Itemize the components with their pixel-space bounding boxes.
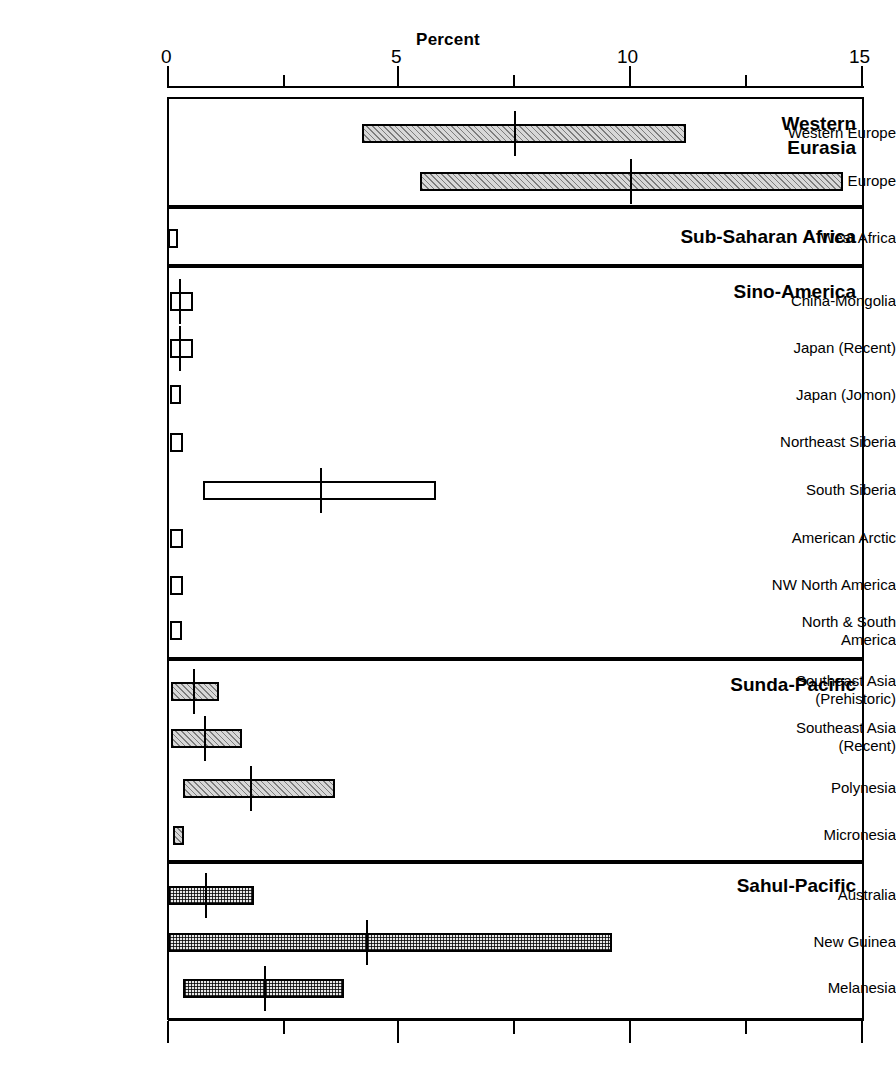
- x-axis-bottom-tick-10: [629, 1021, 631, 1043]
- x-tick-label-15: 15: [849, 46, 870, 68]
- cat-label-northeast-siberia: Northeast Siberia: [741, 433, 896, 451]
- x-axis-top-tick-7.5: [513, 75, 515, 88]
- range-bar: [168, 229, 178, 248]
- x-tick-label-10: 10: [617, 46, 638, 68]
- x-axis-bottom-tick-12.5: [745, 1021, 747, 1034]
- range-bar: [173, 826, 185, 845]
- median-marker: [179, 279, 181, 324]
- cat-label-sea-prehistoric-line2: (Prehistoric): [741, 690, 896, 708]
- cat-label-japan-jomon: Japan (Jomon): [741, 386, 896, 404]
- cat-label-western-europe: Western Europe: [741, 124, 896, 142]
- x-axis-top-tick-15: [861, 66, 863, 88]
- median-marker: [205, 873, 207, 918]
- x-axis-top-tick-12.5: [745, 75, 747, 88]
- range-bar: [170, 292, 193, 311]
- x-axis-top-tick-2.5: [283, 75, 285, 88]
- panel-sino-america: [167, 266, 864, 659]
- range-bar: [362, 124, 686, 143]
- median-marker: [514, 111, 516, 156]
- x-axis-bottom-tick-0: [167, 1021, 169, 1043]
- range-bar: [170, 529, 183, 548]
- median-marker: [366, 920, 368, 965]
- x-axis-bottom-line: [168, 1019, 864, 1021]
- range-bar: [183, 779, 334, 798]
- range-bar: [170, 339, 193, 358]
- cat-label-australia: Australia: [741, 886, 896, 904]
- cat-label-sea-recent-line1: Southeast Asia: [741, 719, 896, 737]
- cat-label-polynesia: Polynesia: [741, 779, 896, 797]
- chart-canvas: Percent 0 5 10 15 Western Eurasia Sub-Sa…: [0, 0, 896, 1072]
- range-bar: [170, 621, 182, 640]
- median-marker: [193, 669, 195, 714]
- range-bar: [168, 886, 254, 905]
- range-bar: [420, 172, 843, 191]
- cat-label-melanesia: Melanesia: [741, 979, 896, 997]
- median-marker: [204, 716, 206, 761]
- cat-label-new-guinea: New Guinea: [741, 933, 896, 951]
- x-axis-bottom-tick-2.5: [283, 1021, 285, 1034]
- cat-label-southeast-asia-prehistoric: Southeast Asia (Prehistoric): [741, 672, 896, 708]
- cat-label-southeast-asia-recent: Southeast Asia (Recent): [741, 719, 896, 755]
- cat-label-north-south-america: North & South America: [741, 613, 896, 649]
- cat-label-sea-prehistoric-line1: Southeast Asia: [741, 672, 896, 690]
- cat-label-north-south-america-line1: North & South: [741, 613, 896, 631]
- x-axis-top-tick-10: [629, 66, 631, 88]
- x-tick-label-5: 5: [391, 46, 402, 68]
- x-axis-top-line: [168, 86, 864, 88]
- x-axis-bottom-tick-15: [861, 1021, 863, 1043]
- cat-label-american-arctic: American Arctic: [741, 529, 896, 547]
- x-axis-bottom-tick-7.5: [513, 1021, 515, 1034]
- range-bar: [168, 933, 612, 952]
- cat-label-south-siberia: South Siberia: [741, 481, 896, 499]
- median-marker: [320, 468, 322, 513]
- x-tick-label-0: 0: [161, 46, 172, 68]
- cat-label-nw-north-america: NW North America: [741, 576, 896, 594]
- range-bar: [170, 385, 181, 404]
- cat-label-china-mongolia: China-Mongolia: [741, 292, 896, 310]
- cat-label-sea-recent-line2: (Recent): [741, 737, 896, 755]
- median-marker: [179, 326, 181, 371]
- median-marker: [264, 966, 266, 1011]
- range-bar: [171, 729, 242, 748]
- cat-label-north-south-america-line2: America: [741, 631, 896, 649]
- cat-label-west-africa: West Africa: [741, 229, 896, 247]
- range-bar: [170, 433, 183, 452]
- median-marker: [250, 766, 252, 811]
- x-axis-top-tick-5: [397, 66, 399, 88]
- range-bar: [170, 576, 183, 595]
- x-axis-bottom-tick-5: [397, 1021, 399, 1043]
- cat-label-micronesia: Micronesia: [741, 826, 896, 844]
- x-axis-top-tick-0: [167, 66, 169, 88]
- x-axis-title: Percent: [0, 30, 896, 50]
- median-marker: [630, 159, 632, 204]
- cat-label-japan-recent: Japan (Recent): [741, 339, 896, 357]
